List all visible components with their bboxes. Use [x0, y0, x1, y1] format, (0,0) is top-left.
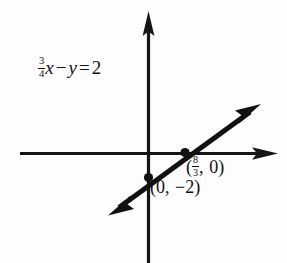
equation-constant: 2	[92, 57, 102, 78]
x-intercept-close-paren: )	[218, 157, 224, 177]
fraction-eight-thirds: 8 3	[192, 155, 199, 178]
y-intercept-comma: ,	[165, 177, 171, 197]
coordinate-plane-svg	[0, 0, 287, 263]
equals-operator: =	[77, 57, 92, 78]
y-intercept-close-paren: )	[194, 177, 200, 197]
fraction-numerator: 3	[38, 56, 45, 67]
fraction-three-fourths: 3 4	[38, 56, 45, 80]
y-intercept-label: (0, −2)	[150, 178, 200, 196]
fraction-denominator: 4	[38, 69, 45, 80]
y-intercept-x-value: 0	[156, 177, 165, 197]
x-intercept-y-value: 0	[209, 157, 218, 177]
minus-operator: −	[54, 57, 69, 78]
y-axis	[143, 11, 155, 263]
y-intercept-y-value: 2	[185, 177, 194, 197]
equation-annotation: 3 4 x−y=2	[38, 57, 101, 81]
y-intercept-minus-sign: −	[175, 177, 185, 197]
plotted-line	[108, 104, 261, 216]
graph-figure: 3 4 x−y=2 ( 8 3 , 0) (0, −2)	[0, 0, 287, 263]
x-intercept-fraction-numerator: 8	[192, 155, 199, 165]
x-intercept-comma: ,	[199, 157, 205, 177]
variable-y: y	[68, 57, 76, 78]
variable-x: x	[45, 57, 53, 78]
x-intercept-label: ( 8 3 , 0)	[186, 156, 224, 179]
